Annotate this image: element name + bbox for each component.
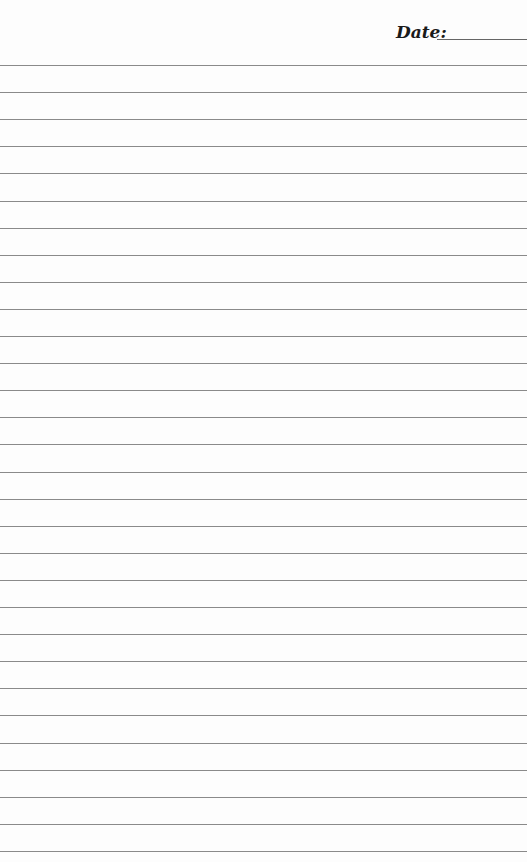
- ruled-line: [0, 824, 527, 825]
- ruled-line: [0, 634, 527, 635]
- ruled-line: [0, 336, 527, 337]
- ruled-line: [0, 444, 527, 445]
- ruled-line: [0, 146, 527, 147]
- ruled-line: [0, 201, 527, 202]
- ruled-line: [0, 309, 527, 310]
- ruled-line: [0, 688, 527, 689]
- date-input-line[interactable]: [437, 39, 527, 40]
- ruled-line: [0, 553, 527, 554]
- ruled-line: [0, 743, 527, 744]
- ruled-line: [0, 65, 527, 66]
- ruled-line: [0, 797, 527, 798]
- ruled-line: [0, 526, 527, 527]
- ruled-line: [0, 472, 527, 473]
- ruled-line: [0, 173, 527, 174]
- ruled-line: [0, 390, 527, 391]
- ruled-line: [0, 228, 527, 229]
- ruled-line: [0, 92, 527, 93]
- ruled-line: [0, 580, 527, 581]
- ruled-line: [0, 282, 527, 283]
- ruled-line: [0, 499, 527, 500]
- ruled-line: [0, 851, 527, 852]
- ruled-line: [0, 770, 527, 771]
- ruled-line: [0, 417, 527, 418]
- ruled-line: [0, 607, 527, 608]
- ruled-line: [0, 363, 527, 364]
- ruled-line: [0, 715, 527, 716]
- ruled-line: [0, 255, 527, 256]
- ruled-line: [0, 661, 527, 662]
- ruled-line: [0, 119, 527, 120]
